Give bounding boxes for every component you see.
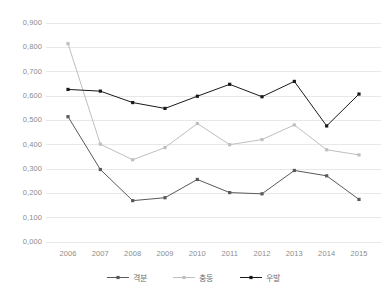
x-axis-tick-label: 2012 [245, 249, 279, 258]
data-point-marker [131, 101, 134, 104]
data-point-marker [293, 123, 296, 126]
data-point-marker [357, 153, 360, 156]
legend-item[interactable]: 충동 [173, 272, 213, 283]
legend-label: 우발 [266, 272, 280, 283]
data-point-marker [260, 95, 263, 98]
x-axis-tick-label: 2006 [51, 249, 85, 258]
x-axis-tick-label: 2014 [310, 249, 344, 258]
y-axis-tick-label: 0,700 [8, 67, 42, 76]
x-axis-tick-label: 2011 [213, 249, 247, 258]
y-axis-tick-label: 0,500 [8, 115, 42, 124]
x-axis-tick-label: 2008 [116, 249, 150, 258]
data-point-marker [196, 95, 199, 98]
y-axis-tick-label: 0,900 [8, 18, 42, 27]
data-point-marker [357, 92, 360, 95]
series-markers [66, 42, 360, 202]
data-point-marker [357, 198, 360, 201]
x-axis-tick-label: 2013 [277, 249, 311, 258]
x-axis-tick-label: 2010 [180, 249, 214, 258]
data-point-marker [325, 174, 328, 177]
series-line [68, 81, 359, 126]
y-axis-tick-label: 0,800 [8, 42, 42, 51]
data-point-marker [293, 80, 296, 83]
series-lines [68, 44, 359, 201]
data-point-marker [325, 148, 328, 151]
data-point-marker [196, 122, 199, 125]
legend-swatch-icon [240, 273, 262, 282]
chart-plot-area [0, 0, 387, 306]
chart-legend: 격분충동우발 [0, 272, 387, 283]
legend-label: 격분 [133, 272, 147, 283]
data-point-marker [325, 124, 328, 127]
data-point-marker [228, 83, 231, 86]
y-axis-tick-label: 0,000 [8, 237, 42, 246]
data-point-marker [228, 191, 231, 194]
data-point-marker [99, 143, 102, 146]
data-point-marker [260, 192, 263, 195]
series-line [68, 117, 359, 201]
series-line [68, 44, 359, 160]
x-axis-tick-label: 2009 [148, 249, 182, 258]
legend-item[interactable]: 우발 [240, 272, 280, 283]
y-axis-tick-label: 0,200 [8, 188, 42, 197]
data-point-marker [163, 107, 166, 110]
data-point-marker [293, 169, 296, 172]
line-chart: 0,9000,8000,7000,6000,5000,4000,3000,200… [0, 0, 387, 306]
data-point-marker [163, 196, 166, 199]
x-axis-tick-label: 2007 [83, 249, 117, 258]
data-point-marker [66, 88, 69, 91]
y-axis-tick-label: 0,600 [8, 91, 42, 100]
data-point-marker [66, 115, 69, 118]
data-point-marker [163, 146, 166, 149]
data-point-marker [196, 178, 199, 181]
data-point-marker [99, 90, 102, 93]
y-axis-tick-label: 0,100 [8, 213, 42, 222]
legend-item[interactable]: 격분 [107, 272, 147, 283]
legend-swatch-icon [107, 273, 129, 282]
y-axis-tick-label: 0,300 [8, 164, 42, 173]
legend-swatch-icon [173, 273, 195, 282]
data-point-marker [131, 158, 134, 161]
data-point-marker [99, 168, 102, 171]
y-axis-tick-label: 0,400 [8, 140, 42, 149]
x-axis-tick-label: 2015 [342, 249, 376, 258]
legend-label: 충동 [199, 272, 213, 283]
data-point-marker [66, 42, 69, 45]
data-point-marker [260, 138, 263, 141]
data-point-marker [131, 199, 134, 202]
data-point-marker [228, 143, 231, 146]
